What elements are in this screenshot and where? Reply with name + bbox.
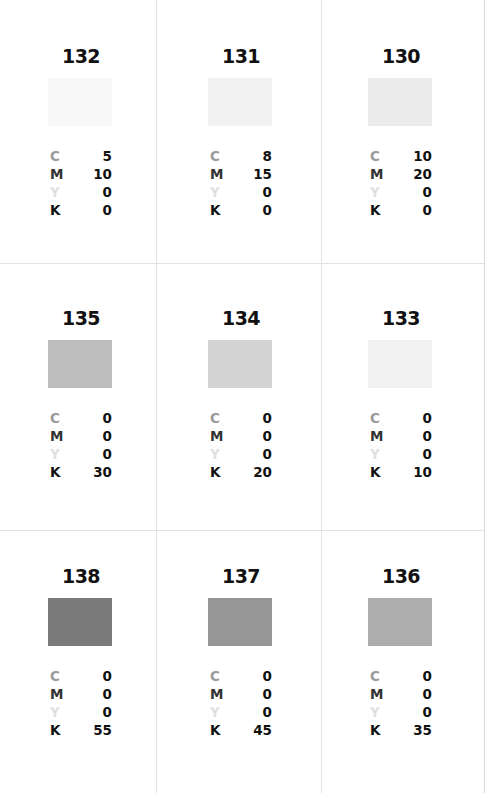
channel-value-k: 30 xyxy=(93,463,112,481)
swatch-number: 131 xyxy=(160,45,322,67)
cmyk-row-c: C5 xyxy=(50,147,112,165)
channel-value-k: 35 xyxy=(413,721,432,739)
cmyk-row-k: K45 xyxy=(210,721,272,739)
channel-value-c: 0 xyxy=(423,667,432,685)
channel-label-m: M xyxy=(210,685,223,703)
swatch-card: 136C0M0Y0K35 xyxy=(320,520,482,785)
cmyk-row-m: M15 xyxy=(210,165,272,183)
channel-label-m: M xyxy=(210,165,223,183)
cmyk-row-y: Y0 xyxy=(370,183,432,201)
cmyk-row-y: Y0 xyxy=(210,703,272,721)
color-swatch xyxy=(48,340,112,388)
channel-value-m: 0 xyxy=(423,685,432,703)
cmyk-row-y: Y0 xyxy=(210,445,272,463)
channel-label-m: M xyxy=(50,685,63,703)
channel-value-k: 10 xyxy=(413,463,432,481)
color-swatch xyxy=(368,340,432,388)
cmyk-row-y: Y0 xyxy=(370,445,432,463)
cmyk-row-c: C8 xyxy=(210,147,272,165)
cmyk-values: C10M20Y0K0 xyxy=(370,147,432,219)
cmyk-row-c: C0 xyxy=(370,667,432,685)
channel-label-m: M xyxy=(210,427,223,445)
channel-value-y: 0 xyxy=(103,703,112,721)
channel-value-c: 10 xyxy=(413,147,432,165)
channel-label-y: Y xyxy=(370,183,380,201)
swatch-card: 135C0M0Y0K30 xyxy=(0,260,162,525)
swatch-number: 136 xyxy=(320,565,482,587)
cmyk-row-m: M0 xyxy=(210,685,272,703)
cmyk-row-k: K0 xyxy=(210,201,272,219)
cmyk-row-k: K35 xyxy=(370,721,432,739)
cmyk-row-k: K20 xyxy=(210,463,272,481)
cmyk-row-k: K0 xyxy=(50,201,112,219)
cmyk-row-m: M10 xyxy=(50,165,112,183)
channel-value-c: 0 xyxy=(103,667,112,685)
channel-label-y: Y xyxy=(370,445,380,463)
swatch-number: 137 xyxy=(160,565,322,587)
cmyk-row-y: Y0 xyxy=(50,183,112,201)
channel-value-y: 0 xyxy=(263,445,272,463)
channel-label-c: C xyxy=(50,147,60,165)
channel-label-c: C xyxy=(210,147,220,165)
cmyk-row-k: K10 xyxy=(370,463,432,481)
channel-label-c: C xyxy=(370,667,380,685)
channel-label-y: Y xyxy=(50,183,60,201)
swatch-number: 133 xyxy=(320,307,482,329)
cmyk-values: C8M15Y0K0 xyxy=(210,147,272,219)
channel-label-k: K xyxy=(370,201,380,219)
cmyk-row-m: M0 xyxy=(50,427,112,445)
channel-label-y: Y xyxy=(50,445,60,463)
cmyk-values: C0M0Y0K30 xyxy=(50,409,112,481)
cmyk-values: C0M0Y0K10 xyxy=(370,409,432,481)
channel-value-c: 0 xyxy=(423,409,432,427)
channel-label-c: C xyxy=(370,409,380,427)
channel-value-c: 0 xyxy=(263,409,272,427)
channel-label-k: K xyxy=(210,721,220,739)
channel-value-m: 0 xyxy=(263,427,272,445)
channel-value-m: 0 xyxy=(103,427,112,445)
color-swatch xyxy=(48,78,112,126)
swatch-card: 137C0M0Y0K45 xyxy=(160,520,322,785)
channel-value-m: 0 xyxy=(103,685,112,703)
channel-value-k: 20 xyxy=(253,463,272,481)
channel-value-m: 15 xyxy=(253,165,272,183)
color-swatch xyxy=(208,340,272,388)
cmyk-row-m: M20 xyxy=(370,165,432,183)
cmyk-row-m: M0 xyxy=(50,685,112,703)
color-swatch xyxy=(368,598,432,646)
cmyk-row-y: Y0 xyxy=(50,445,112,463)
channel-value-c: 0 xyxy=(103,409,112,427)
swatch-number: 138 xyxy=(0,565,162,587)
channel-label-k: K xyxy=(370,721,380,739)
channel-label-c: C xyxy=(370,147,380,165)
swatch-card: 133C0M0Y0K10 xyxy=(320,260,482,525)
channel-label-k: K xyxy=(210,201,220,219)
swatch-card: 132C5M10Y0K0 xyxy=(0,0,162,265)
channel-value-k: 45 xyxy=(253,721,272,739)
cmyk-row-c: C10 xyxy=(370,147,432,165)
cmyk-row-y: Y0 xyxy=(50,703,112,721)
channel-label-c: C xyxy=(210,409,220,427)
channel-label-y: Y xyxy=(50,703,60,721)
color-swatch xyxy=(208,598,272,646)
channel-value-y: 0 xyxy=(423,445,432,463)
channel-label-k: K xyxy=(50,463,60,481)
cmyk-row-c: C0 xyxy=(210,667,272,685)
channel-value-m: 0 xyxy=(423,427,432,445)
channel-label-m: M xyxy=(370,427,383,445)
channel-value-k: 0 xyxy=(263,201,272,219)
swatch-number: 134 xyxy=(160,307,322,329)
channel-label-k: K xyxy=(50,721,60,739)
channel-label-c: C xyxy=(50,667,60,685)
cmyk-row-c: C0 xyxy=(370,409,432,427)
swatch-number: 132 xyxy=(0,45,162,67)
color-swatch xyxy=(368,78,432,126)
cmyk-row-c: C0 xyxy=(50,667,112,685)
swatch-number: 130 xyxy=(320,45,482,67)
cmyk-values: C0M0Y0K55 xyxy=(50,667,112,739)
channel-label-m: M xyxy=(370,685,383,703)
swatch-card: 131C8M15Y0K0 xyxy=(160,0,322,265)
channel-label-m: M xyxy=(50,165,63,183)
channel-label-c: C xyxy=(210,667,220,685)
cmyk-values: C5M10Y0K0 xyxy=(50,147,112,219)
